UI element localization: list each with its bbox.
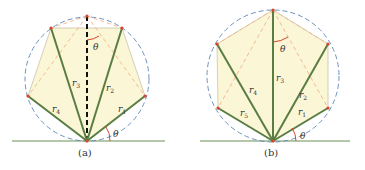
diagram-canvas: θ θ r1 r2 r3 r4 (a) xyxy=(0,0,365,170)
angle-arc-bottom xyxy=(106,127,110,141)
theta-bottom-label: θ xyxy=(300,131,306,141)
panel-a: θ θ r1 r2 r3 r4 (a) xyxy=(12,14,165,158)
theta-top-label: θ xyxy=(93,42,99,52)
panel-b: θ θ r1 r2 r3 r4 r5 (b) xyxy=(200,8,350,158)
theta-top-label: θ xyxy=(280,44,286,54)
theta-bottom-label: θ xyxy=(113,129,119,139)
caption-a: (a) xyxy=(78,147,92,158)
caption-b: (b) xyxy=(264,147,278,158)
